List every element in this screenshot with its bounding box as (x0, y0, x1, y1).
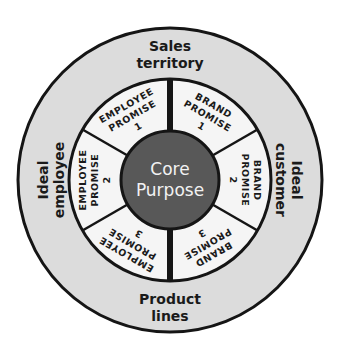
outer-label-top-line2: territory (136, 55, 203, 71)
outer-label-left-line1: Ideal (35, 161, 51, 200)
outer-label-bottom-line1: Product (139, 291, 201, 307)
outer-label-top-line1: Sales (149, 38, 191, 54)
svg-text:EMPLOYEE: EMPLOYEE (77, 149, 88, 210)
core-label-line2: Purpose (136, 180, 204, 200)
core-purpose-diagram: Core Purpose Sales territory Product lin… (0, 0, 339, 356)
core-label-line1: Core (150, 159, 189, 179)
outer-label-right-line2: customer (273, 143, 289, 217)
svg-text:BRAND: BRAND (252, 160, 263, 201)
svg-text:2: 2 (228, 176, 239, 183)
svg-text:PROMISE: PROMISE (240, 154, 251, 207)
svg-text:2: 2 (101, 176, 112, 183)
outer-label-bottom-line2: lines (151, 308, 188, 324)
svg-text:PROMISE: PROMISE (89, 154, 100, 207)
outer-label-left-line2: employee (51, 142, 67, 219)
outer-label-right-line1: Ideal (289, 161, 305, 200)
